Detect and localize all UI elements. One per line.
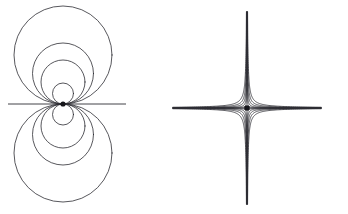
dipole-field-circle [33, 104, 94, 165]
dipole-field-circle [33, 43, 94, 104]
dipole-field-circle [53, 83, 74, 104]
dipole-field-circle [14, 104, 112, 202]
saddle-streamline [247, 12, 321, 108]
saddle-streamline [173, 108, 247, 204]
dipole-field-circle [41, 60, 85, 104]
saddle-streamline [173, 109, 246, 204]
saddle-streamline [173, 12, 247, 108]
saddle-streamline [173, 12, 247, 108]
saddle-streamline [173, 108, 247, 204]
saddle-singular-point [244, 105, 250, 111]
dipole-upper-lobe-curves [14, 6, 112, 104]
figure-canvas [0, 0, 348, 214]
saddle-streamline [247, 108, 321, 204]
saddle-streamline [248, 109, 321, 204]
saddle-streamline [173, 12, 246, 107]
dipole-field-circle [53, 104, 74, 125]
saddle-streamline [173, 108, 247, 204]
saddle-field-diagram [173, 12, 321, 204]
dipole-singular-point [60, 101, 65, 106]
saddle-streamline [247, 108, 321, 204]
saddle-streamline [173, 12, 247, 108]
dipole-lower-lobe-curves [14, 104, 112, 202]
saddle-streamline [248, 12, 321, 107]
dipole-field-diagram [8, 6, 126, 202]
saddle-streamline [247, 12, 321, 108]
dipole-field-circle [41, 104, 85, 148]
saddle-streamline [173, 12, 247, 108]
saddle-streamline [247, 12, 321, 108]
saddle-streamline [247, 108, 321, 204]
saddle-streamline [247, 12, 321, 108]
dipole-field-circle [14, 6, 112, 104]
saddle-streamline [247, 108, 321, 204]
saddle-streamline [173, 108, 247, 204]
